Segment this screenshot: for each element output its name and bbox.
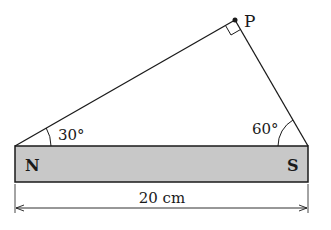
angle-arc-60: [278, 120, 293, 146]
angle-arc-30: [46, 128, 51, 146]
magnet-diagram: P 30° 60° N S 20 cm: [0, 0, 331, 230]
label-dimension: 20 cm: [139, 189, 185, 207]
label-pole-n: N: [25, 156, 40, 175]
label-p: P: [244, 11, 255, 31]
line-n-to-p: [15, 20, 235, 146]
right-angle-mark: [226, 26, 241, 36]
label-angle-30: 30°: [58, 126, 85, 144]
point-p: [233, 18, 238, 23]
bar-magnet: [15, 146, 308, 182]
label-pole-s: S: [287, 156, 299, 175]
label-angle-60: 60°: [252, 120, 279, 138]
